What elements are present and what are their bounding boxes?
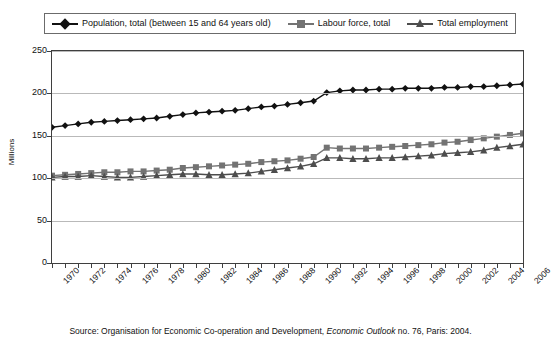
x-tick-mark xyxy=(91,264,92,268)
legend-label-total-employment: Total employment xyxy=(437,19,508,28)
legend-label-population: Population, total (between 15 and 64 yea… xyxy=(82,19,271,28)
x-tick-label: 1976 xyxy=(140,266,160,286)
data-point-marker xyxy=(298,156,304,162)
data-point-marker xyxy=(206,109,213,116)
x-tick-mark xyxy=(144,264,145,268)
data-point-marker xyxy=(297,99,304,106)
x-axis-labels: 1970197219741976197819801982198419861988… xyxy=(0,266,541,306)
data-point-marker xyxy=(310,98,317,105)
legend-marker xyxy=(297,20,305,28)
source-suffix: no. 76, Paris: 2004. xyxy=(395,326,471,336)
gridline xyxy=(52,178,523,179)
data-point-marker xyxy=(245,161,251,167)
legend-label-labour-force: Labour force, total xyxy=(318,19,391,28)
x-tick-label: 1984 xyxy=(245,266,265,286)
data-point-marker xyxy=(363,146,369,152)
x-tick-mark xyxy=(288,264,289,268)
y-tick-mark xyxy=(47,51,51,52)
data-point-marker xyxy=(101,118,108,125)
x-tick-label: 1998 xyxy=(428,266,448,286)
x-tick-mark xyxy=(248,264,249,268)
x-tick-mark xyxy=(471,264,472,268)
data-point-marker xyxy=(324,145,330,151)
x-tick-label: 1982 xyxy=(219,266,239,286)
legend-item-labour-force[interactable]: Labour force, total xyxy=(288,18,391,29)
data-point-marker xyxy=(428,141,434,147)
x-tick-mark xyxy=(497,264,498,268)
x-tick-mark xyxy=(510,264,511,268)
x-tick-mark xyxy=(65,264,66,268)
y-tick-label: 50 xyxy=(17,216,47,225)
data-point-marker xyxy=(258,159,264,165)
data-point-marker xyxy=(127,116,134,123)
data-point-marker xyxy=(258,104,265,111)
data-point-marker xyxy=(179,111,186,118)
data-point-marker xyxy=(415,142,421,148)
data-point-marker xyxy=(402,85,409,92)
data-point-marker xyxy=(507,132,513,138)
x-tick-mark xyxy=(523,264,524,268)
data-point-marker xyxy=(114,117,121,124)
data-point-marker xyxy=(311,154,317,160)
x-tick-label: 1994 xyxy=(376,266,396,286)
diamond-marker-icon xyxy=(52,18,78,29)
x-tick-label: 1990 xyxy=(323,266,343,286)
gridline xyxy=(52,93,523,94)
data-point-marker xyxy=(219,162,225,168)
source-note: Source: Organisation for Economic Co-ope… xyxy=(0,326,541,337)
data-point-marker xyxy=(428,85,435,92)
x-tick-mark xyxy=(52,264,53,268)
x-tick-mark xyxy=(314,264,315,268)
x-tick-label: 1986 xyxy=(271,266,291,286)
data-point-marker xyxy=(520,81,523,88)
x-tick-mark xyxy=(366,264,367,268)
x-tick-label: 1996 xyxy=(402,266,422,286)
x-tick-mark xyxy=(392,264,393,268)
data-point-marker xyxy=(468,137,474,143)
x-tick-mark xyxy=(222,264,223,268)
data-point-marker xyxy=(219,108,226,115)
data-point-marker xyxy=(232,107,239,114)
data-point-marker xyxy=(480,83,487,90)
x-tick-mark xyxy=(235,264,236,268)
legend-item-population[interactable]: Population, total (between 15 and 64 yea… xyxy=(52,18,271,29)
x-tick-label: 2000 xyxy=(454,266,474,286)
y-tick-mark xyxy=(47,93,51,94)
data-point-marker xyxy=(180,165,186,171)
x-tick-mark xyxy=(431,264,432,268)
data-point-marker xyxy=(153,115,160,122)
y-tick-mark xyxy=(47,221,51,222)
data-point-marker xyxy=(389,144,395,150)
y-tick-mark xyxy=(47,178,51,179)
data-point-marker xyxy=(389,86,396,93)
data-point-marker xyxy=(140,115,147,122)
x-tick-mark xyxy=(131,264,132,268)
x-tick-label: 1992 xyxy=(349,266,369,286)
x-tick-mark xyxy=(78,264,79,268)
data-point-marker xyxy=(442,140,448,146)
chart-legend: Population, total (between 15 and 64 yea… xyxy=(44,13,516,34)
source-prefix: Source: Organisation for Economic Co-ope… xyxy=(69,326,326,336)
data-point-marker xyxy=(88,119,95,126)
series-1 xyxy=(52,81,523,131)
data-point-marker xyxy=(193,164,199,170)
data-point-marker xyxy=(402,143,408,149)
data-point-marker xyxy=(441,84,448,91)
data-point-marker xyxy=(310,160,317,167)
data-point-marker xyxy=(232,162,238,168)
x-tick-mark xyxy=(104,264,105,268)
data-point-marker xyxy=(376,86,383,93)
x-tick-mark xyxy=(196,264,197,268)
x-tick-mark xyxy=(418,264,419,268)
y-tick-mark xyxy=(47,136,51,137)
x-tick-label: 2002 xyxy=(480,266,500,286)
data-point-marker xyxy=(507,82,514,89)
y-tick-label: 200 xyxy=(17,88,47,97)
data-point-marker xyxy=(285,157,291,163)
x-tick-mark xyxy=(261,264,262,268)
legend-item-total-employment[interactable]: Total employment xyxy=(407,18,508,29)
gridline xyxy=(52,221,523,222)
data-point-marker xyxy=(493,82,500,89)
plot-area xyxy=(51,50,524,264)
